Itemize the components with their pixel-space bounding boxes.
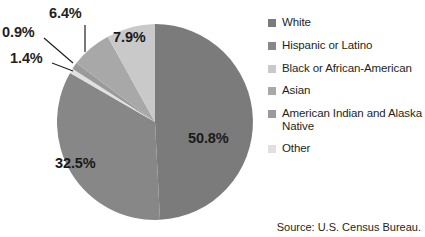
legend-label: Asian [282, 84, 310, 97]
legend-label: White [282, 16, 311, 29]
pie-slices [57, 24, 253, 220]
chart-legend: White Hispanic or Latino Black or Africa… [268, 16, 425, 165]
legend-item-other[interactable]: Other [268, 142, 425, 155]
legend-item-hispanic[interactable]: Hispanic or Latino [268, 39, 425, 52]
pie-chart-figure: 50.8% 32.5% 7.9% 6.4% 0.9% 1.4% White Hi… [0, 0, 425, 237]
slice-value-asian: 6.4% [49, 5, 82, 21]
legend-swatch-icon [268, 145, 276, 153]
legend-label: Hispanic or Latino [282, 39, 372, 52]
source-note: Source: U.S. Census Bureau. [277, 221, 421, 233]
legend-item-black[interactable]: Black or African-American [268, 62, 425, 75]
legend-label: Other [282, 142, 310, 155]
slice-value-hispanic: 32.5% [55, 155, 96, 171]
legend-item-american-indian[interactable]: American Indian and Alaska Native [268, 107, 425, 133]
legend-item-white[interactable]: White [268, 16, 425, 29]
legend-swatch-icon [268, 19, 276, 27]
legend-label: American Indian and Alaska Native [282, 107, 425, 133]
pie-graphic [57, 16, 257, 232]
legend-item-asian[interactable]: Asian [268, 84, 425, 97]
slice-value-american-indian: 1.4% [10, 50, 43, 66]
legend-swatch-icon [268, 65, 276, 73]
pie-svg [57, 16, 257, 232]
slice-value-other: 0.9% [2, 24, 35, 40]
slice-value-black: 7.9% [113, 29, 146, 45]
slice-value-white: 50.8% [188, 130, 229, 146]
legend-swatch-icon [268, 110, 276, 118]
legend-swatch-icon [268, 42, 276, 50]
legend-label: Black or African-American [282, 62, 412, 75]
legend-swatch-icon [268, 87, 276, 95]
pie-slice-white [155, 24, 253, 220]
